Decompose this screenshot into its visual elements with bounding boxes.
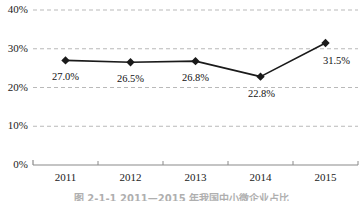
data-point-label: 26.8% — [166, 72, 226, 83]
data-point-label: 22.8% — [232, 88, 292, 99]
data-point-marker — [126, 58, 134, 66]
data-point-label: 27.0% — [36, 71, 96, 82]
data-point-label: 31.5% — [307, 55, 363, 66]
x-axis-tick-label: 2015 — [296, 172, 356, 183]
data-point-marker — [256, 72, 264, 80]
figure-caption: 图 2-1-1 2011—2015 年我国中小微企业占比 — [0, 193, 363, 201]
x-axis-tick-label: 2012 — [101, 172, 161, 183]
x-axis-tick-label: 2014 — [231, 172, 291, 183]
y-axis-tick-label: 0% — [13, 159, 28, 170]
x-axis-tick-label: 2011 — [36, 172, 96, 183]
data-point-marker — [61, 56, 69, 64]
y-axis-tick-label: 10% — [8, 120, 28, 131]
data-point-marker — [191, 57, 199, 65]
y-axis-tick-label: 30% — [8, 43, 28, 54]
y-axis-tick-label: 40% — [8, 4, 28, 15]
data-point-marker — [321, 39, 329, 47]
x-axis-tick-label: 2013 — [166, 172, 226, 183]
axes-group — [33, 160, 358, 165]
line-chart: 0%10%20%30%40% 20112012201320142015 27.0… — [0, 0, 363, 201]
y-axis-tick-label: 20% — [8, 82, 28, 93]
gridlines-group — [33, 10, 358, 126]
data-point-label: 26.5% — [101, 73, 161, 84]
